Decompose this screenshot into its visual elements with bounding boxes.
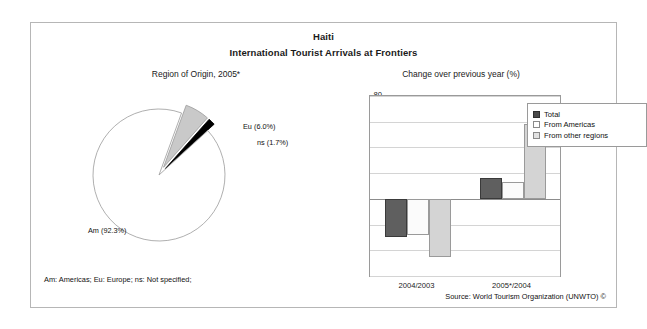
abbreviations-note: Am: Americas; Eu: Europe; ns: Not specif…	[44, 275, 191, 284]
chart-legend: Total From Americas From other regions	[527, 103, 647, 147]
bar-other-20042003	[429, 199, 451, 257]
legend-label-total: Total	[544, 110, 560, 119]
legend-swatch-from-americas	[533, 121, 540, 128]
pie-chart-svg	[71, 93, 331, 268]
legend-item-total: Total	[533, 110, 641, 119]
gridline--60	[370, 276, 560, 277]
legend-item-from-other-regions: From other regions	[533, 131, 641, 140]
gridline--40	[370, 250, 560, 251]
x-tick-label-1: 2005*/2004	[467, 281, 557, 290]
bar-americas-20052004	[502, 182, 524, 199]
pie-label-am: Am (92.3%)	[88, 226, 127, 235]
legend-item-from-americas: From Americas	[533, 120, 641, 129]
legend-swatch-total	[533, 111, 540, 118]
pie-label-eu: Eu (6.0%)	[243, 122, 275, 131]
bar-chart: 806040200-20-40-60 2004/20032005*/2004 T…	[331, 89, 616, 289]
chart-frame: Haiti International Tourist Arrivals at …	[30, 22, 617, 308]
x-tick-label-0: 2004/2003	[372, 281, 462, 290]
pie-chart-heading: Region of Origin, 2005*	[76, 69, 316, 79]
legend-label-from-other-regions: From other regions	[544, 131, 608, 140]
pie-chart: Eu (6.0%) ns (1.7%) Am (92.3%)	[71, 93, 331, 268]
legend-swatch-from-other-regions	[533, 132, 540, 139]
source-note: Source: World Tourism Organization (UNWT…	[445, 292, 606, 301]
page-subtitle: International Tourist Arrivals at Fronti…	[31, 47, 616, 58]
bar-chart-heading: Change over previous year (%)	[341, 69, 581, 79]
legend-label-from-americas: From Americas	[544, 120, 595, 129]
pie-label-ns: ns (1.7%)	[257, 138, 288, 147]
bar-total-20052004	[480, 178, 502, 199]
gridline-80	[370, 96, 560, 97]
page-title: Haiti	[31, 31, 616, 42]
bar-americas-20042003	[407, 199, 429, 235]
bar-total-20042003	[385, 199, 407, 238]
